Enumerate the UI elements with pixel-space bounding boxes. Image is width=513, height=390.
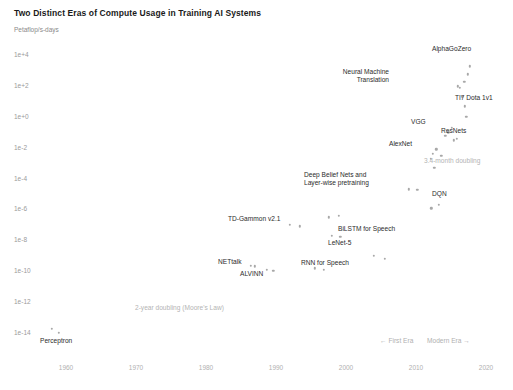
point-label: ALVINN [240,270,263,278]
scatter-point [266,269,268,271]
x-axis-tick: 2020 [479,364,493,371]
scatter-point [299,225,301,227]
x-axis-tick: 2010 [409,364,423,371]
point-label: ResNets [441,127,466,135]
trend-annotation: 3.4-month doubling [424,157,480,164]
chart-canvas: Two Distinct Eras of Compute Usage in Tr… [0,0,513,390]
scatter-point [289,224,291,226]
point-label: Deep Belief Nets and Layer-wise pretrain… [304,171,369,188]
y-axis-tick: 1e-8 [14,236,27,243]
y-axis-tick: 1e-14 [14,329,31,336]
scatter-point [383,258,385,260]
scatter-point [463,80,465,82]
y-axis-tick: 1e-12 [14,298,31,305]
scatter-point [254,265,256,267]
scatter-point [435,148,437,150]
scatter-point [313,267,315,269]
point-label: AlphaGoZero [432,45,471,53]
scatter-point [373,254,375,256]
era-label: Modern Era → [427,337,470,344]
x-axis-tick: 1970 [129,364,143,371]
x-axis-tick: 1980 [199,364,213,371]
x-axis-tick: 1960 [59,364,73,371]
scatter-point [467,73,469,75]
scatter-point [338,214,340,216]
point-label: AlexNet [389,140,412,148]
scatter-point [464,105,466,107]
y-axis-tick: 1e+0 [14,113,29,120]
scatter-point [459,86,461,88]
chart-title: Two Distinct Eras of Compute Usage in Tr… [14,8,261,18]
scatter-point [455,137,457,139]
y-axis-tick: 1e-4 [14,175,27,182]
scatter-point [433,167,435,169]
scatter-point [339,236,341,238]
scatter-point [331,234,333,236]
x-axis-tick: 1990 [269,364,283,371]
era-label: ← First Era [380,337,413,344]
scatter-point [465,116,467,118]
point-label: TD-Gammon v2.1 [228,215,280,223]
x-axis-tick: 2000 [339,364,353,371]
scatter-point [432,153,434,155]
point-label: RNN for Speech [301,259,349,267]
scatter-point [58,331,60,333]
trend-annotation: 2-year doubling (Moore's Law) [135,304,224,311]
scatter-point [453,139,455,141]
scatter-point [51,327,53,329]
scatter-point [438,204,440,206]
scatter-point [469,65,471,67]
y-axis-tick: 1e+4 [14,51,29,58]
scatter-point [322,269,324,271]
point-label: Neural Machine Translation [343,68,389,85]
point-label: LeNet-5 [328,239,351,247]
y-axis-tick: 1e-2 [14,144,27,151]
scatter-point [250,265,252,267]
point-label: BiLSTM for Speech [338,225,395,233]
point-label: DQN [432,190,447,198]
scatter-point [408,188,410,190]
y-axis-tick: 1e+2 [14,82,29,89]
scatter-point [430,207,432,209]
scatter-point [272,270,274,272]
y-axis-label: Petaflop/s-days [14,26,59,33]
scatter-point [416,189,418,191]
y-axis-tick: 1e-10 [14,267,31,274]
point-label: VGG [411,118,426,126]
point-label: Perceptron [40,337,72,345]
point-label: TI7 Dota 1v1 [455,94,493,102]
y-axis-tick: 1e-6 [14,205,27,212]
point-label: NETtalk [218,258,241,266]
scatter-point [327,216,329,218]
